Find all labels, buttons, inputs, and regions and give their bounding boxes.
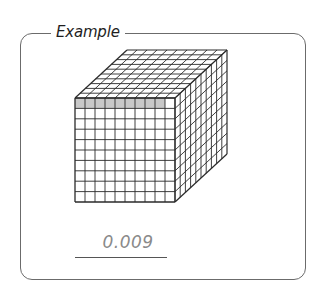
answer-underline bbox=[75, 257, 167, 258]
cube-grid bbox=[75, 50, 227, 202]
answer-value: 0.009 bbox=[83, 232, 173, 252]
